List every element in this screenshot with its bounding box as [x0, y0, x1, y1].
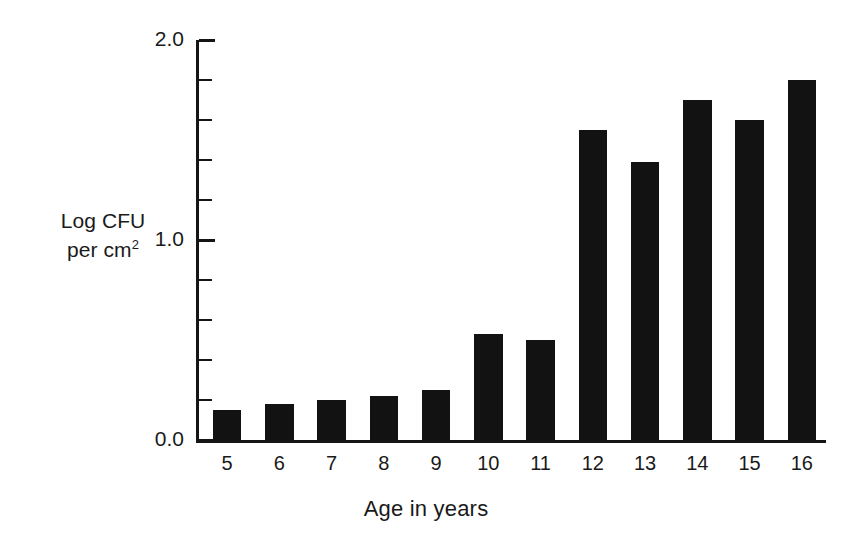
x-axis-tick-label: 9 [410, 452, 463, 475]
bar-series [199, 40, 826, 440]
bar-slot [317, 40, 345, 440]
x-axis-tick-label: 10 [462, 452, 515, 475]
x-axis-line [196, 440, 826, 443]
x-axis-tick-label: 7 [305, 452, 358, 475]
bar [265, 404, 293, 440]
bar [370, 396, 398, 440]
bar [474, 334, 502, 440]
bar [317, 400, 345, 440]
x-axis-tick-label: 14 [671, 452, 724, 475]
bar [735, 120, 763, 440]
bar [683, 100, 711, 440]
bar-slot [735, 40, 763, 440]
x-axis-tick-label: 13 [619, 452, 672, 475]
bar [526, 340, 554, 440]
y-axis-tick-label: 2.0 [130, 27, 184, 51]
bar-slot [683, 40, 711, 440]
bar-slot [788, 40, 816, 440]
bar-slot [631, 40, 659, 440]
x-axis-title: Age in years [0, 496, 852, 522]
x-axis-tick-label: 5 [201, 452, 254, 475]
x-axis-tick-label: 15 [723, 452, 776, 475]
x-axis-tick-label: 8 [358, 452, 411, 475]
x-axis-tick-label: 11 [514, 452, 567, 475]
bar [788, 80, 816, 440]
bar-slot [213, 40, 241, 440]
bar-chart-figure: Log CFU per cm2 5678910111213141516 0.01… [0, 0, 852, 555]
plot-area: 5678910111213141516 [196, 40, 826, 440]
bar-slot [265, 40, 293, 440]
x-axis-tick-label: 16 [776, 452, 829, 475]
bar [631, 162, 659, 440]
y-axis-title-line2-text: per cm [67, 238, 132, 261]
bar-slot [370, 40, 398, 440]
bar [579, 130, 607, 440]
y-axis-tick-label: 0.0 [130, 427, 184, 451]
bar [422, 390, 450, 440]
bar-slot [526, 40, 554, 440]
y-axis-tick-label: 1.0 [130, 227, 184, 251]
bar-slot [579, 40, 607, 440]
bar [213, 410, 241, 440]
bar-slot [474, 40, 502, 440]
x-axis-tick-label: 12 [567, 452, 620, 475]
bar-slot [422, 40, 450, 440]
x-axis-tick-label: 6 [253, 452, 306, 475]
